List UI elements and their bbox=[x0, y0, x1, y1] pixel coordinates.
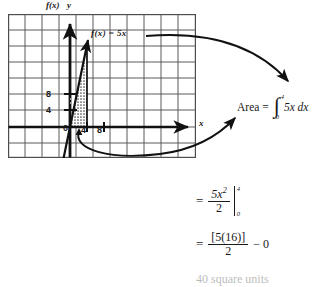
step2-numerator: [5(16)] bbox=[208, 231, 248, 245]
step1-eval-upper: 4 bbox=[237, 185, 240, 192]
area-integral-expression: Area = ∫ 4 0 5x dx bbox=[237, 98, 308, 115]
area-equals-sign: = bbox=[262, 101, 269, 113]
integrand-expression: 5x dx bbox=[284, 101, 309, 113]
step1-fraction: 5x2 2 bbox=[208, 187, 229, 214]
worked-step-3-result: 40 square units bbox=[196, 272, 269, 287]
arrow-curve-to-integrand bbox=[146, 35, 288, 81]
step1-exponent: 2 bbox=[223, 186, 227, 195]
step2-equals-sign: = bbox=[196, 236, 203, 252]
integral-symbol-group: ∫ 4 0 bbox=[274, 98, 280, 115]
integral-upper-limit: 4 bbox=[281, 93, 284, 100]
arrowhead-up-at-region bbox=[76, 128, 83, 135]
step2-fraction: [5(16)] 2 bbox=[208, 231, 248, 257]
step3-value: 40 square units bbox=[196, 272, 269, 287]
step2-trailing-term: − 0 bbox=[253, 237, 269, 252]
step1-eval-lower: 0 bbox=[237, 210, 240, 217]
step1-evaluation-bar: 4 0 bbox=[233, 186, 242, 216]
worked-step-1: = 5x2 2 4 0 bbox=[196, 186, 242, 216]
step1-denominator: 2 bbox=[216, 202, 222, 215]
step2-denominator: 2 bbox=[225, 245, 231, 258]
evaluation-vertical-line bbox=[234, 186, 235, 216]
step1-equals-sign: = bbox=[196, 193, 203, 209]
area-word: Area bbox=[237, 101, 259, 113]
arrow-curve-to-area-label bbox=[78, 118, 235, 156]
worked-step-2: = [5(16)] 2 − 0 bbox=[196, 231, 269, 257]
step1-numerator: 5x2 bbox=[208, 187, 229, 202]
integral-lower-limit: 0 bbox=[276, 113, 279, 120]
